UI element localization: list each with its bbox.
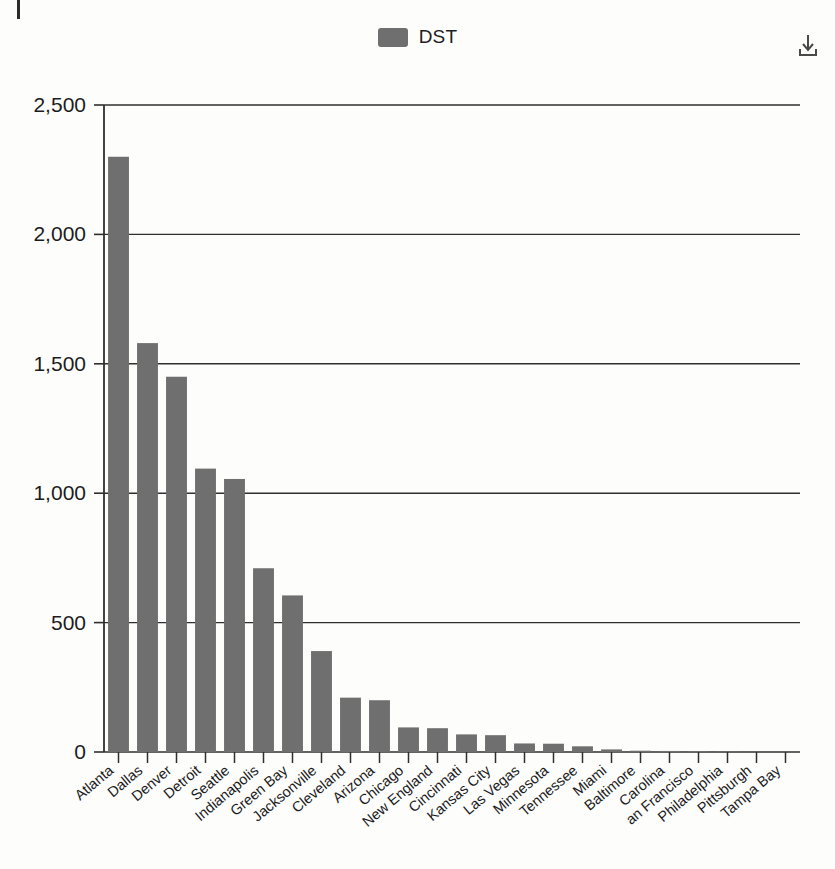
y-axis-label: 0: [74, 740, 86, 763]
bar[interactable]: [659, 751, 680, 752]
bar[interactable]: [166, 377, 187, 752]
bar[interactable]: [195, 469, 216, 752]
bar[interactable]: [717, 751, 738, 752]
bar[interactable]: [630, 751, 651, 752]
bar[interactable]: [311, 651, 332, 752]
bar-chart: 05001,0001,5002,0002,500AtlantaDallasDen…: [0, 0, 835, 869]
bar[interactable]: [514, 743, 535, 752]
bar[interactable]: [108, 157, 129, 752]
bar[interactable]: [688, 751, 709, 752]
y-axis-label: 1,500: [33, 352, 86, 375]
y-axis-label: 2,000: [33, 222, 86, 245]
bar[interactable]: [456, 734, 477, 752]
bar[interactable]: [340, 698, 361, 752]
bar[interactable]: [601, 749, 622, 752]
bar[interactable]: [137, 343, 158, 752]
bar[interactable]: [224, 479, 245, 752]
bar[interactable]: [572, 746, 593, 752]
bar[interactable]: [427, 728, 448, 752]
bar[interactable]: [543, 744, 564, 752]
bar[interactable]: [485, 735, 506, 752]
bar[interactable]: [253, 568, 274, 752]
bar[interactable]: [398, 727, 419, 752]
y-axis-label: 2,500: [33, 93, 86, 116]
y-axis-label: 1,000: [33, 481, 86, 504]
bar[interactable]: [369, 700, 390, 752]
chart-page: DST 05001,0001,5002,0002,500AtlantaDalla…: [0, 0, 835, 869]
bar[interactable]: [282, 595, 303, 752]
y-axis-label: 500: [51, 611, 86, 634]
